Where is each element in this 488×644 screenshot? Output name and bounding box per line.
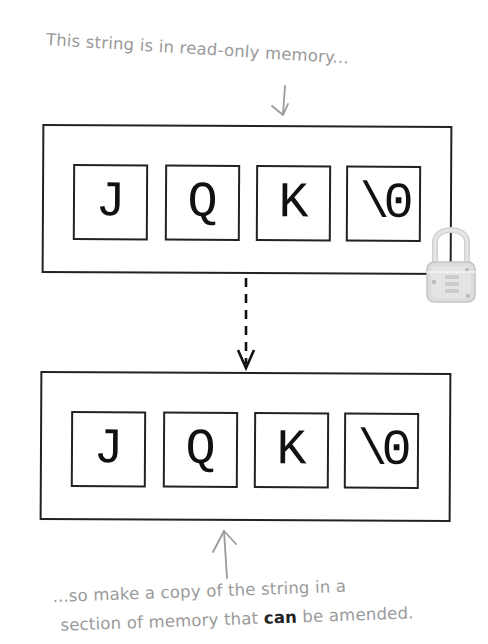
char-cell: J bbox=[73, 164, 148, 240]
char-cell: \0 bbox=[346, 166, 421, 242]
copy-dashed-arrow-icon bbox=[232, 276, 262, 372]
line2-after: be amended. bbox=[297, 603, 414, 626]
char-k: K bbox=[276, 425, 306, 475]
annotation-down-arrow-icon bbox=[268, 84, 298, 118]
char-cell: Q bbox=[163, 412, 238, 488]
copy-annotation: ...so make a copy of the string in a sec… bbox=[52, 569, 414, 640]
char-cell: K bbox=[256, 165, 331, 241]
char-q: Q bbox=[185, 425, 215, 475]
char-cell: Q bbox=[165, 165, 240, 241]
emphasis-can: can bbox=[263, 607, 297, 627]
char-null-terminator: \0 bbox=[357, 426, 405, 476]
char-q: Q bbox=[187, 178, 217, 228]
padlock-icon bbox=[425, 220, 477, 306]
read-only-memory-block: J Q K \0 bbox=[42, 124, 453, 275]
read-only-annotation: This string is in read-only memory... bbox=[45, 30, 349, 67]
char-null-terminator: \0 bbox=[359, 179, 407, 229]
amendable-memory-block: J Q K \0 bbox=[40, 371, 452, 522]
char-j: J bbox=[93, 424, 123, 474]
annotation-up-arrow-icon bbox=[210, 528, 242, 582]
char-cell: K bbox=[254, 412, 329, 488]
char-k: K bbox=[278, 178, 308, 228]
char-cell: J bbox=[71, 411, 146, 487]
line2-before: section of memory that bbox=[60, 609, 264, 635]
char-cell: \0 bbox=[344, 413, 419, 489]
char-j: J bbox=[95, 177, 125, 227]
